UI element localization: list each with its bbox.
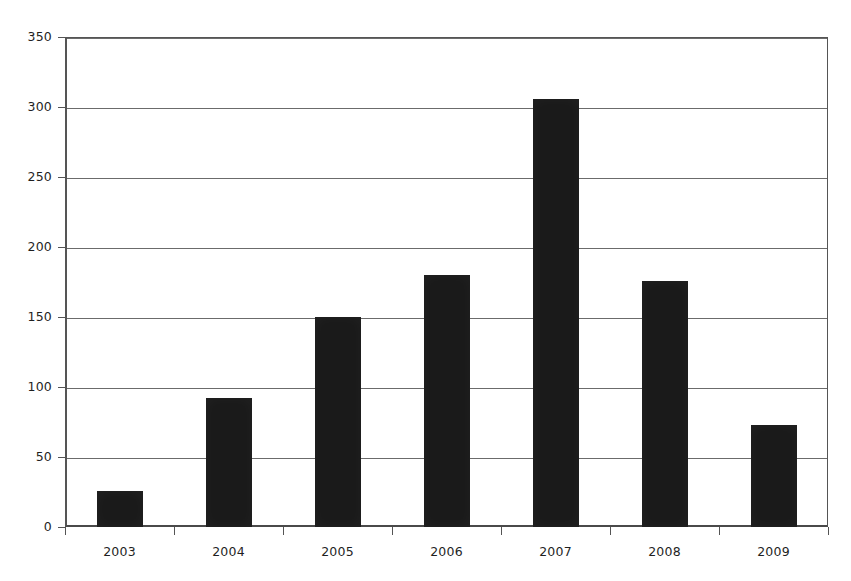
y-tick-mark-250 (58, 177, 65, 178)
bar-2008 (642, 281, 688, 527)
x-tick-mark (392, 527, 393, 535)
y-tick-mark-100 (58, 387, 65, 388)
y-axis-tick-label: 250 (4, 171, 52, 184)
y-axis-tick-label: 0 (4, 521, 52, 534)
bar-2006 (424, 275, 470, 527)
bars-layer (65, 37, 828, 527)
bar-2009 (751, 425, 797, 527)
y-tick-mark-300 (58, 107, 65, 108)
y-tick-mark-50 (58, 457, 65, 458)
x-axis-category-label: 2007 (501, 546, 610, 559)
y-axis-tick-label: 350 (4, 31, 52, 44)
y-axis-labels: 050100150200250300350 (0, 0, 52, 581)
bar-2005 (315, 317, 361, 527)
x-axis-category-label: 2005 (283, 546, 392, 559)
x-axis-category-label: 2006 (392, 546, 501, 559)
x-axis-category-label: 2008 (610, 546, 719, 559)
x-axis-category-label: 2009 (719, 546, 828, 559)
x-tick-mark (174, 527, 175, 535)
bar-chart: 050100150200250300350 200320042005200620… (0, 0, 851, 581)
y-axis-tick-label: 300 (4, 101, 52, 114)
y-tick-mark-150 (58, 317, 65, 318)
y-axis-tick-label: 150 (4, 311, 52, 324)
y-tick-mark-350 (58, 37, 65, 38)
y-tick-mark-0 (58, 527, 65, 528)
x-tick-mark (610, 527, 611, 535)
x-axis-category-label: 2004 (174, 546, 283, 559)
y-axis-tick-label: 100 (4, 381, 52, 394)
bar-2003 (97, 491, 143, 527)
x-axis-category-label: 2003 (65, 546, 174, 559)
bar-2004 (206, 398, 252, 527)
y-axis-tick-label: 200 (4, 241, 52, 254)
bar-2007 (533, 99, 579, 527)
x-tick-mark (283, 527, 284, 535)
y-tick-mark-200 (58, 247, 65, 248)
gridline-0 (67, 528, 827, 529)
x-tick-mark (65, 527, 66, 535)
x-tick-mark (501, 527, 502, 535)
x-tick-mark (719, 527, 720, 535)
x-tick-mark (828, 527, 829, 535)
y-axis-tick-label: 50 (4, 451, 52, 464)
